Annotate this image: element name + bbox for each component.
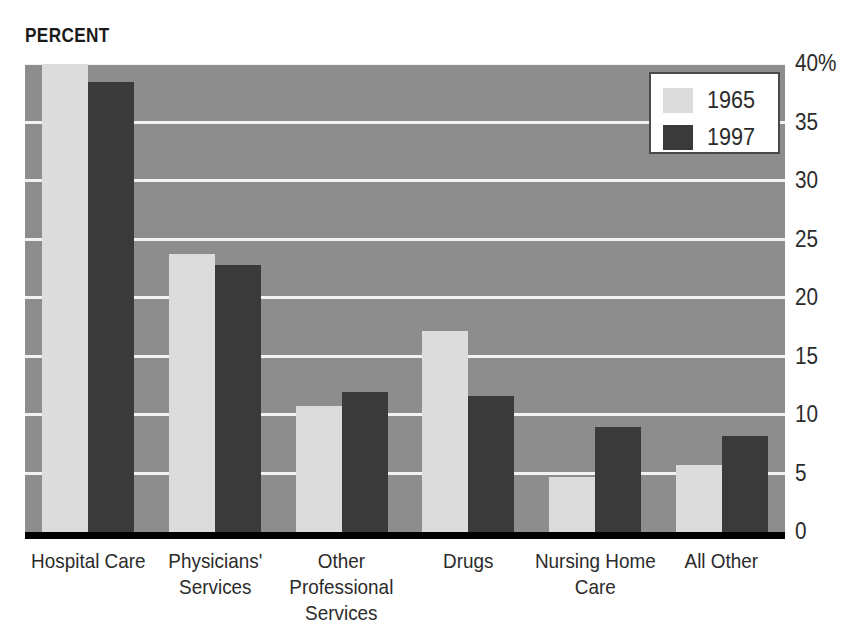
bar-1997 <box>342 392 388 532</box>
bar-1965 <box>549 477 595 532</box>
bar-group <box>532 64 659 532</box>
chart-figure: PERCENT 0510152025303540% Hospital CareP… <box>0 0 861 624</box>
y-tick-label: 5 <box>795 460 807 487</box>
bar-1997 <box>722 436 768 532</box>
bar-1965 <box>422 331 468 532</box>
bar-1965 <box>296 406 342 532</box>
legend-swatch-icon <box>663 88 693 113</box>
legend-label: 1965 <box>707 85 755 115</box>
y-tick-label: 15 <box>795 343 818 370</box>
bar-group <box>152 64 279 532</box>
legend-swatch-icon <box>663 125 693 150</box>
x-axis-baseline <box>25 532 785 539</box>
y-tick-label: 30 <box>795 167 818 194</box>
bar-group <box>278 64 405 532</box>
y-tick-label: 35 <box>795 109 818 136</box>
bar-1965 <box>676 465 722 532</box>
x-tick-label: Nursing Home Care <box>527 548 663 600</box>
bar-group <box>25 64 152 532</box>
legend-label: 1997 <box>707 122 755 152</box>
x-tick-label: Other Professional Services <box>274 548 410 624</box>
x-tick-label: Drugs <box>401 548 537 574</box>
bar-group <box>405 64 532 532</box>
x-tick-label: Hospital Care <box>21 548 157 574</box>
bar-1965 <box>42 64 88 532</box>
bar-1997 <box>595 427 641 532</box>
y-tick-label: 25 <box>795 226 818 253</box>
bar-1997 <box>215 265 261 532</box>
y-tick-label: 40% <box>795 50 836 77</box>
bar-1997 <box>468 396 514 532</box>
y-tick-label: 0 <box>795 518 807 545</box>
y-tick-label: 20 <box>795 284 818 311</box>
x-tick-label: All Other <box>654 548 790 574</box>
x-tick-label: Physicians' Services <box>147 548 283 600</box>
chart-legend: 19651997 <box>649 72 780 154</box>
bar-1965 <box>169 254 215 532</box>
bar-1997 <box>88 82 134 532</box>
y-tick-label: 10 <box>795 401 818 428</box>
y-axis-unit-label: PERCENT <box>25 24 110 47</box>
